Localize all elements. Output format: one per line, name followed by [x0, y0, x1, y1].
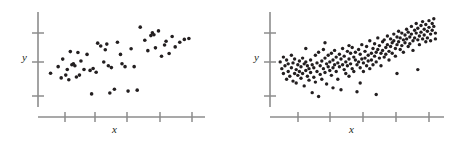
- data-point: [370, 58, 373, 61]
- data-point: [400, 44, 403, 47]
- left-x-axis: [38, 112, 205, 122]
- data-point: [421, 37, 424, 40]
- data-point: [351, 46, 354, 49]
- data-point: [392, 32, 395, 35]
- data-point: [312, 76, 315, 79]
- data-point: [343, 68, 346, 71]
- data-point: [295, 68, 298, 71]
- data-point: [335, 55, 338, 58]
- right-x-axis: [270, 112, 444, 122]
- data-point: [424, 40, 427, 43]
- data-point: [410, 32, 413, 35]
- data-point: [56, 65, 60, 69]
- data-point: [157, 29, 161, 33]
- data-point: [110, 66, 114, 70]
- data-point: [421, 20, 424, 23]
- data-point: [423, 33, 426, 36]
- data-point: [373, 54, 376, 57]
- data-point: [309, 58, 312, 61]
- data-point: [298, 59, 301, 62]
- data-point: [415, 22, 418, 25]
- data-point: [432, 25, 435, 28]
- data-point: [285, 78, 288, 81]
- data-point: [399, 48, 402, 51]
- data-point: [387, 58, 390, 61]
- data-point: [429, 39, 432, 42]
- data-point: [103, 48, 107, 52]
- data-point: [64, 73, 68, 77]
- data-point: [424, 23, 427, 26]
- data-point: [431, 29, 434, 32]
- left-scatter-panel: y x: [0, 0, 232, 143]
- data-point: [280, 67, 283, 70]
- data-point: [301, 72, 304, 75]
- right-x-axis-label: x: [348, 123, 354, 135]
- data-point: [105, 42, 109, 46]
- data-point: [99, 44, 103, 48]
- data-point: [395, 43, 398, 46]
- data-point: [410, 25, 413, 28]
- data-point: [135, 88, 139, 92]
- data-point: [132, 65, 136, 69]
- data-point: [296, 63, 299, 66]
- data-point: [429, 32, 432, 35]
- data-point: [384, 53, 387, 56]
- data-point: [349, 52, 352, 55]
- data-point: [355, 90, 358, 93]
- data-point: [311, 63, 314, 66]
- data-point: [331, 86, 334, 89]
- data-point: [328, 69, 331, 72]
- data-point: [327, 65, 330, 68]
- data-point: [160, 55, 164, 59]
- data-point: [328, 60, 331, 63]
- data-point: [344, 60, 347, 63]
- data-point: [164, 39, 168, 43]
- data-point: [331, 66, 334, 69]
- data-point: [322, 67, 325, 70]
- data-point: [319, 73, 322, 76]
- data-point: [365, 45, 368, 48]
- data-point: [434, 31, 437, 34]
- data-point: [170, 35, 174, 39]
- data-point: [363, 56, 366, 59]
- data-point: [94, 70, 98, 74]
- data-point: [291, 61, 294, 64]
- data-point: [379, 64, 382, 67]
- data-point: [347, 44, 350, 47]
- data-point: [330, 74, 333, 77]
- data-point: [167, 52, 171, 56]
- data-point: [85, 53, 89, 57]
- data-point: [306, 75, 309, 78]
- data-point: [320, 59, 323, 62]
- data-point: [395, 72, 398, 75]
- data-point: [327, 54, 330, 57]
- left-y-axis-label: y: [21, 51, 27, 63]
- data-point: [288, 75, 291, 78]
- data-point: [333, 63, 336, 66]
- data-point: [123, 65, 127, 69]
- data-point: [359, 81, 362, 84]
- data-point: [293, 57, 296, 60]
- data-point: [307, 78, 310, 81]
- data-point: [426, 36, 429, 39]
- data-point: [405, 37, 408, 40]
- data-point: [351, 67, 354, 70]
- data-point: [126, 89, 130, 93]
- data-point: [314, 54, 317, 57]
- data-point: [82, 68, 86, 72]
- data-point: [357, 48, 360, 51]
- data-point: [65, 68, 69, 72]
- data-point: [392, 39, 395, 42]
- data-point: [378, 44, 381, 47]
- data-point: [407, 45, 410, 48]
- data-point: [359, 66, 362, 69]
- data-point: [282, 55, 285, 58]
- data-point: [341, 47, 344, 50]
- data-point: [357, 60, 360, 63]
- data-point: [413, 36, 416, 39]
- data-point: [397, 30, 400, 33]
- data-point: [152, 33, 156, 37]
- data-point: [69, 50, 73, 54]
- data-point: [338, 65, 341, 68]
- data-point: [107, 64, 111, 68]
